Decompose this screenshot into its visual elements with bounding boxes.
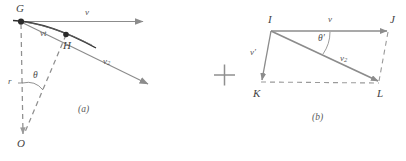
panel-a-caption: (a) <box>78 105 89 115</box>
radius-line-GO <box>21 24 23 134</box>
vector-label-v2-a-subscript: 2 <box>107 59 110 66</box>
angle-label-theta: θ <box>33 71 38 81</box>
vertex-label-O: O <box>17 138 25 149</box>
vertex-label-J: J <box>390 14 395 25</box>
dashed-line-JL <box>379 32 388 81</box>
panel-b-caption: (b) <box>312 113 323 123</box>
physics-vector-diagram <box>0 0 406 161</box>
angle-theta-arc <box>23 82 44 90</box>
vertex-label-I: I <box>268 14 272 25</box>
vector-label-v-a: v <box>85 8 89 17</box>
vector-label-v-b: v <box>328 15 332 24</box>
vertex-label-H: H <box>63 40 71 51</box>
point-H-marker <box>63 32 69 38</box>
radius-line-HO <box>25 35 66 132</box>
vector-label-v2-a: v2 <box>103 57 110 67</box>
point-G-marker <box>18 18 24 24</box>
vector-label-v2-b: v2 <box>340 54 347 64</box>
dashed-line-KL <box>261 82 379 83</box>
vector-label-v2-b-subscript: 2 <box>344 56 347 63</box>
vector-v-prime-arrow <box>262 31 271 80</box>
plus-sign-group <box>214 65 235 86</box>
vertex-label-L: L <box>377 88 383 99</box>
vector-label-v-prime: v′ <box>250 48 256 57</box>
vector-label-vt: vt <box>40 29 47 38</box>
radius-label-r: r <box>8 77 12 86</box>
angle-label-theta-prime: θ′ <box>318 34 325 44</box>
vertex-label-G: G <box>16 3 24 14</box>
trajectory-arc-inner <box>21 22 92 46</box>
vertex-label-K: K <box>253 88 260 99</box>
